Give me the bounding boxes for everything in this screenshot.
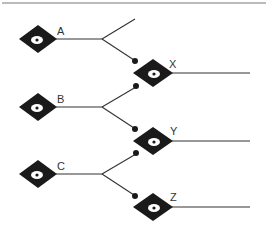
connector-dot [133,83,139,89]
connector-dot [133,150,139,156]
node-y [133,127,173,155]
network-diagram: A B C X Y Z [0,0,272,237]
edge-b-x [102,87,136,107]
connector-dot [132,193,138,199]
connector-dot [132,126,138,132]
node-a [19,25,57,53]
connector-dot [132,58,138,64]
node-label-b: B [57,93,64,105]
node-label-c: C [57,160,65,172]
edge-c-z [102,174,134,195]
node-c [19,160,57,188]
node-x [133,59,173,87]
node-label-a: A [57,25,65,37]
node-z [133,193,173,221]
edge-a-x [102,39,134,60]
node-label-z: Z [170,191,177,203]
edge-c-y [102,154,136,174]
node-b [19,93,57,121]
edge-b-y [102,107,134,128]
node-label-x: X [169,58,177,70]
node-label-y: Y [170,125,178,137]
edge-a-dangling [102,19,135,39]
